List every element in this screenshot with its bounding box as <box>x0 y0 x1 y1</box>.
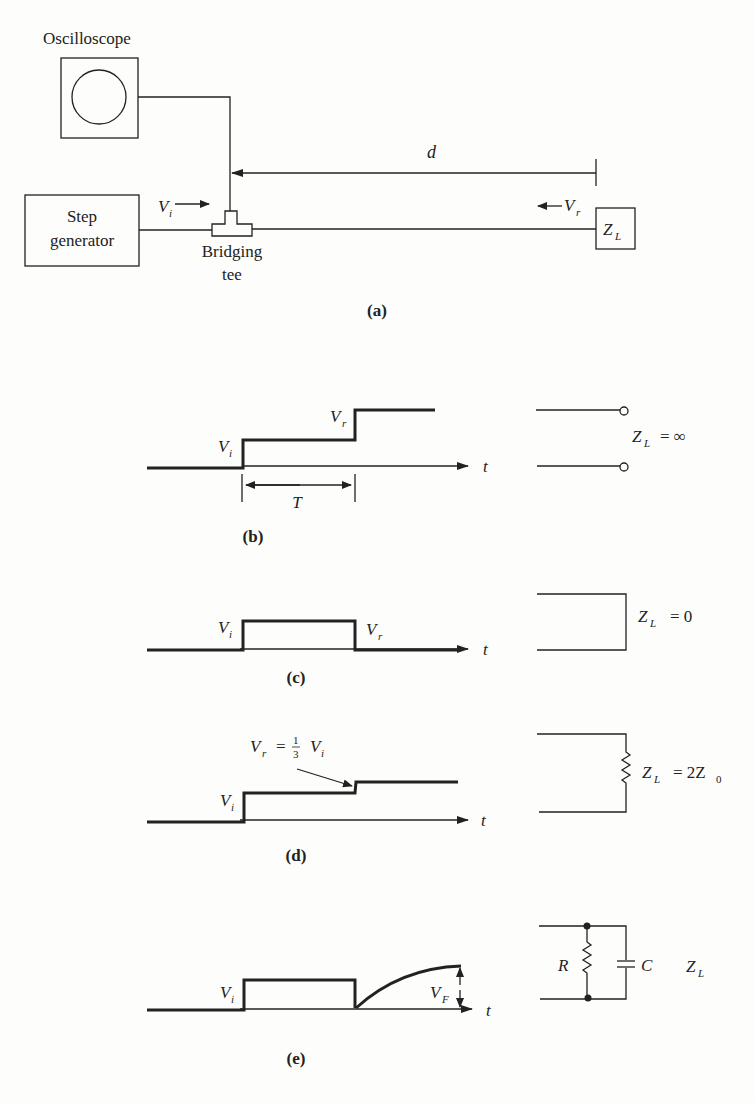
panel-c: V i V r t Z L = 0 (c) <box>147 594 692 687</box>
oscilloscope-icon <box>61 58 138 138</box>
svg-text:t: t <box>483 457 489 476</box>
svg-text:C: C <box>641 956 653 975</box>
caption-b: (b) <box>243 527 264 546</box>
svg-text:r: r <box>342 417 347 429</box>
waveform-rc <box>147 980 355 1010</box>
step-generator-box: Step generator <box>25 195 139 266</box>
svg-text:r: r <box>262 747 267 759</box>
open-circuit-load <box>536 407 628 471</box>
panel-d: V i t V r = 1 3 V i Z L = 2Z 0 (d) <box>147 734 722 865</box>
svg-text:Z: Z <box>603 220 613 239</box>
panel-b: V i V r t T Z L = ∞ (b) <box>147 407 686 546</box>
svg-text:L: L <box>614 230 621 242</box>
resistor-icon <box>583 926 591 999</box>
svg-text:i: i <box>229 628 232 640</box>
svg-text:i: i <box>231 993 234 1005</box>
tdr-figure: Oscilloscope Step generator Bridging tee… <box>0 0 755 1103</box>
svg-text:Step: Step <box>67 207 97 226</box>
svg-text:= ∞: = ∞ <box>660 427 686 446</box>
svg-text:Bridging: Bridging <box>202 242 263 261</box>
short-circuit-load <box>537 594 626 650</box>
waveform-matched-2z0 <box>147 782 458 822</box>
caption-c: (c) <box>287 668 306 687</box>
load-box: Z L <box>596 208 635 249</box>
svg-text:Z: Z <box>642 763 652 782</box>
svg-text:i: i <box>321 747 324 759</box>
caption-d: (d) <box>286 846 307 865</box>
caption-e: (e) <box>287 1049 306 1068</box>
svg-text:i: i <box>169 207 172 219</box>
svg-text:1: 1 <box>293 734 299 746</box>
svg-text:i: i <box>231 801 234 813</box>
svg-text:tee: tee <box>222 265 242 284</box>
svg-text:t: t <box>483 640 489 659</box>
svg-text:=: = <box>276 737 286 756</box>
svg-text:= 2Z: = 2Z <box>673 763 706 782</box>
svg-text:Z: Z <box>632 427 642 446</box>
svg-text:r: r <box>378 630 383 642</box>
svg-text:Z: Z <box>686 957 696 976</box>
svg-text:r: r <box>576 206 581 218</box>
svg-text:t: t <box>481 811 487 830</box>
reflection-annotation: V r = 1 3 V i <box>250 734 352 786</box>
svg-text:0: 0 <box>716 773 722 785</box>
svg-text:T: T <box>292 493 303 512</box>
svg-text:generator: generator <box>50 231 115 250</box>
svg-text:= 0: = 0 <box>670 607 692 626</box>
svg-text:R: R <box>557 956 569 975</box>
svg-text:L: L <box>649 617 656 629</box>
caption-a: (a) <box>367 301 387 320</box>
svg-text:i: i <box>229 447 232 459</box>
svg-text:L: L <box>653 773 660 785</box>
svg-text:Z: Z <box>638 607 648 626</box>
rc-parallel-load <box>539 923 635 1002</box>
panel-e: V i V F t R C Z L (e) <box>147 923 704 1069</box>
waveform-short <box>147 621 460 650</box>
bridging-tee-icon <box>212 211 252 236</box>
svg-text:L: L <box>697 967 704 979</box>
waveform-open <box>147 410 435 468</box>
svg-text:3: 3 <box>293 748 299 760</box>
panel-a: Oscilloscope Step generator Bridging tee… <box>25 29 635 320</box>
svg-text:t: t <box>486 1001 492 1020</box>
distance-label: d <box>427 142 437 162</box>
diagram-svg: Oscilloscope Step generator Bridging tee… <box>0 0 755 1103</box>
oscilloscope-lead <box>138 97 230 211</box>
oscilloscope-label: Oscilloscope <box>43 29 131 48</box>
resistor-load-2z0 <box>537 734 630 812</box>
svg-text:F: F <box>441 993 449 1005</box>
svg-text:L: L <box>643 437 650 449</box>
